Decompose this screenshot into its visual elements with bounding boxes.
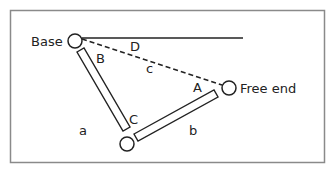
elbow-joint <box>120 137 134 151</box>
label-angle-A: A <box>193 80 202 95</box>
label-link-a: a <box>79 123 87 138</box>
base-joint <box>68 34 82 48</box>
label-link-b: b <box>189 123 197 138</box>
label-free-end: Free end <box>240 81 296 96</box>
robot-arm-diagram: Base Free end a b c A B C D <box>0 0 335 178</box>
free-end-joint <box>222 81 236 95</box>
label-angle-D: D <box>130 39 140 54</box>
label-line-c: c <box>146 61 153 76</box>
label-angle-C: C <box>129 112 138 127</box>
link-b <box>134 90 218 141</box>
label-base: Base <box>31 34 63 49</box>
label-angle-B: B <box>96 51 105 66</box>
